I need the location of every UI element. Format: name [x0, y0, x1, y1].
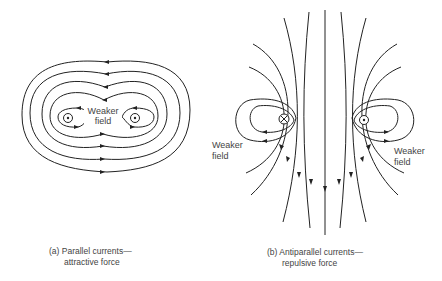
current-out-of-page-icon [363, 119, 365, 121]
current-out-of-page-icon [67, 117, 69, 119]
panel-b-field-lines [236, 10, 414, 235]
panel-b-right-weaker-field-label: Weaker [394, 146, 425, 156]
current-out-of-page-icon [134, 117, 136, 119]
panel-a-caption: (a) Parallel currents— [49, 246, 132, 256]
panel-a-caption-2: attractive force [64, 257, 120, 267]
panel-b-caption-2: repulsive force [282, 258, 338, 268]
panel-a-weaker-field-label-2: field [95, 116, 112, 126]
panel-a-wire-left [64, 114, 73, 123]
panel-b-left-weaker-field-label-2: field [212, 151, 229, 161]
panel-a-wire-right [131, 114, 140, 123]
panel-b-antiparallel-currents: Weaker field Weaker field (b) Antiparall… [212, 10, 425, 268]
panel-b-wire-left [279, 114, 289, 124]
magnetic-field-diagram: Weaker field (a) Parallel currents— attr… [0, 0, 442, 281]
panel-b-right-weaker-field-label-2: field [394, 157, 411, 167]
panel-a-parallel-currents: Weaker field (a) Parallel currents— attr… [22, 60, 190, 267]
panel-a-weaker-field-label: Weaker [88, 106, 119, 116]
panel-b-caption: (b) Antiparallel currents— [267, 247, 363, 257]
panel-b-left-weaker-field-label: Weaker [212, 140, 243, 150]
panel-b-wire-right [360, 116, 369, 125]
